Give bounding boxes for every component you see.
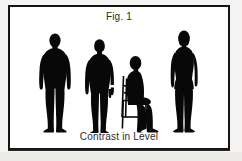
figure-frame: Fig. 1 — [8, 5, 230, 150]
silhouette-group — [10, 21, 228, 133]
silhouette-seated-figure-on-chair — [116, 55, 168, 133]
figure-page: Fig. 1 — [0, 0, 242, 161]
figure-caption: Contrast in Level — [10, 131, 228, 143]
silhouette-standing-female-front — [162, 30, 208, 133]
silhouette-standing-male-front — [32, 33, 78, 133]
scan-edge-band — [0, 152, 242, 161]
